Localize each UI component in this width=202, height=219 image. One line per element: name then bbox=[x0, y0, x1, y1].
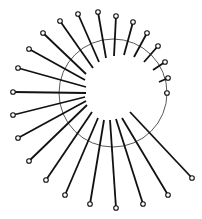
pin-head-circle bbox=[165, 91, 170, 96]
pin-head-circle bbox=[63, 193, 68, 198]
pin-head-circle bbox=[27, 47, 32, 52]
pin-head-circle bbox=[11, 113, 16, 118]
pin bbox=[164, 91, 169, 96]
pin-head-circle bbox=[166, 76, 171, 81]
pin-head-circle bbox=[27, 159, 32, 164]
pin-head-circle bbox=[114, 14, 119, 19]
pin-head-circle bbox=[190, 176, 195, 181]
pin-head-circle bbox=[114, 206, 119, 211]
pin-head-circle bbox=[88, 202, 93, 207]
pin-head-circle bbox=[96, 10, 101, 15]
pin-head-circle bbox=[76, 12, 81, 17]
pin-head-circle bbox=[41, 31, 46, 36]
pin-head-circle bbox=[16, 66, 21, 71]
pin-head-circle bbox=[44, 178, 49, 183]
pin-head-circle bbox=[156, 44, 161, 49]
pin-line bbox=[13, 92, 86, 93]
pin-head-circle bbox=[58, 19, 63, 24]
pin-head-circle bbox=[163, 60, 168, 65]
pin-head-circle bbox=[11, 90, 16, 95]
pin-head-circle bbox=[145, 31, 150, 36]
pin-head-circle bbox=[16, 136, 21, 141]
pin-head-circle bbox=[166, 193, 171, 198]
radial-pin-diagram bbox=[0, 0, 202, 219]
pin-head-circle bbox=[131, 20, 136, 25]
pin-head-circle bbox=[141, 202, 146, 207]
